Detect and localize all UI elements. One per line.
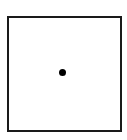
center-dot	[59, 69, 66, 76]
